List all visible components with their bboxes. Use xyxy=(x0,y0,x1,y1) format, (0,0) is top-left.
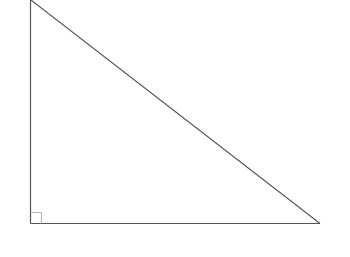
right-triangle-figure xyxy=(0,0,350,257)
hypotenuse xyxy=(31,0,320,224)
right-angle-marker xyxy=(31,213,42,224)
diagram-canvas xyxy=(0,0,350,257)
